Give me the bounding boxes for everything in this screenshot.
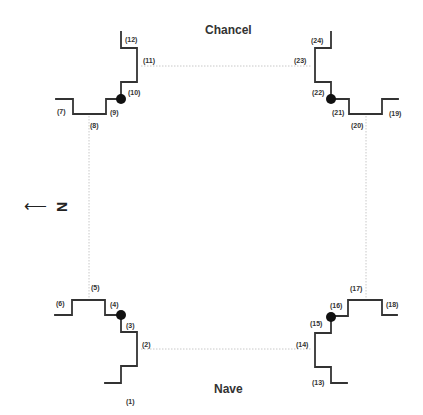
point-label-4: (4)	[110, 301, 119, 309]
point-label-21: (21)	[332, 109, 344, 117]
point-label-17: (17)	[350, 285, 362, 293]
point-label-10: (10)	[128, 89, 140, 97]
point-label-6: (6)	[56, 300, 65, 308]
point-label-1: (1)	[126, 398, 135, 406]
point-label-12: (12)	[125, 36, 137, 44]
point-label-7: (7)	[57, 108, 66, 116]
point-label-11: (11)	[143, 57, 155, 65]
church-plan-diagram: (1) (2) (3) (4) (5) (6) (7) (8) (9) (10)…	[0, 0, 423, 415]
corner-marker-nw	[116, 94, 126, 104]
point-label-18: (18)	[386, 301, 398, 309]
point-label-5: (5)	[91, 284, 100, 292]
point-label-3: (3)	[126, 322, 135, 330]
corner-marker-sw	[116, 310, 126, 320]
point-label-16: (16)	[330, 302, 342, 310]
point-label-23: (23)	[294, 57, 306, 65]
point-label-9: (9)	[110, 109, 119, 117]
point-label-19: (19)	[389, 110, 401, 118]
point-label-8: (8)	[90, 122, 99, 130]
point-label-14: (14)	[296, 341, 308, 349]
point-label-13: (13)	[312, 379, 324, 387]
point-label-15: (15)	[310, 320, 322, 328]
point-label-20: (20)	[351, 122, 363, 130]
corner-marker-ne	[326, 94, 336, 104]
point-label-22: (22)	[312, 89, 324, 97]
corner-marker-se	[326, 312, 336, 322]
point-label-2: (2)	[142, 341, 151, 349]
point-label-24: (24)	[311, 37, 323, 45]
